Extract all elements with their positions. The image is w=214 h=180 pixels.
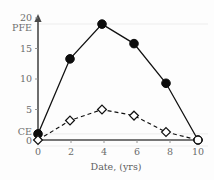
data-point-ce-x6	[130, 111, 139, 120]
gridlines-group	[37, 24, 208, 146]
data-point-pfe-x2	[66, 55, 75, 64]
x-axis-title: Date, (yrs)	[91, 161, 142, 172]
y-tick-label-0: 0	[26, 135, 32, 146]
data-point-ce-x10	[194, 136, 202, 144]
data-point-ce-x4	[98, 105, 107, 114]
series-line-pfe	[38, 24, 198, 140]
data-point-pfe-x4	[98, 20, 107, 29]
x-tick-label-2: 2	[68, 146, 74, 157]
x-tick-label-10: 10	[192, 146, 204, 157]
x-tick-label-4: 4	[101, 146, 107, 157]
x-tick-label-6: 6	[134, 146, 140, 157]
y-tick-label-10: 10	[20, 73, 32, 84]
y-axis	[34, 14, 41, 140]
series-line-ce	[38, 110, 198, 141]
x-tick-label-0: 0	[35, 146, 41, 157]
chart-container: 20 PFE 15 10 5 CE 0 0 2 4 6 8 10 Date, (…	[0, 0, 214, 180]
data-point-pfe-x6	[130, 39, 139, 48]
data-point-pfe-x8	[162, 79, 171, 88]
x-tick-label-8: 8	[167, 146, 173, 157]
line-chart-plot: 20 PFE 15 10 5 CE 0 0 2 4 6 8 10 Date, (…	[0, 0, 214, 180]
y-tick-label-5: 5	[26, 104, 32, 115]
data-point-ce-x8	[162, 128, 171, 137]
data-point-ce-x2	[66, 116, 75, 125]
y-tick-label-15: 15	[20, 43, 32, 54]
series-layer	[34, 20, 203, 145]
y-band-label-pfe: PFE	[12, 22, 32, 33]
